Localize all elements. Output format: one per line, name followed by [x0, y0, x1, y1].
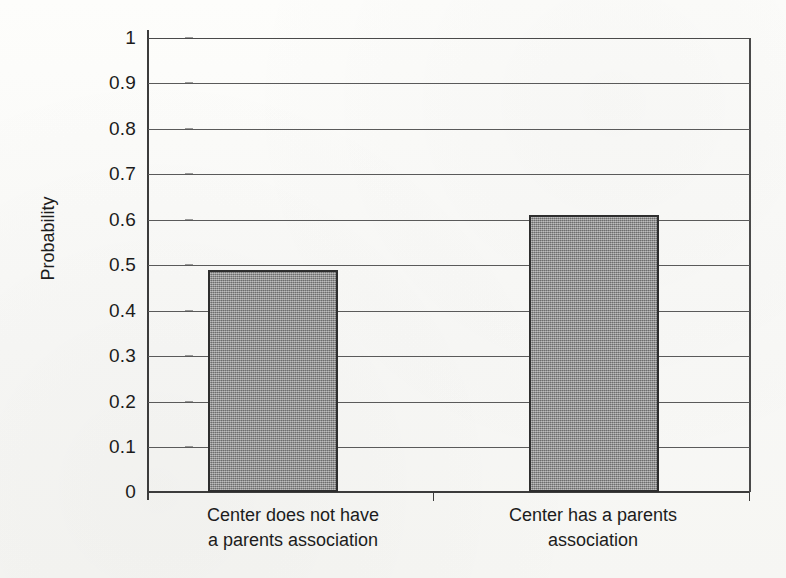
- bar-center-has-parents-association: [529, 215, 659, 492]
- y-tick-label-0-9: 0.9: [109, 72, 136, 94]
- x-category-label-0-line-0: Center does not have: [152, 503, 434, 528]
- x-category-label-1: Center has a parents association: [452, 503, 734, 553]
- gridline-0-7: [148, 174, 750, 175]
- y-tick-label-0-7: 0.7: [109, 163, 136, 185]
- gridline-0-5: [148, 265, 750, 266]
- y-tick-label-0-1: 0.1: [109, 436, 136, 458]
- y-tick-label-0-3: 0.3: [109, 345, 136, 367]
- x-tick-mark-right: [749, 492, 750, 501]
- gridline-0-9: [148, 83, 750, 84]
- y-tick-label-0: 0: [125, 481, 136, 503]
- x-category-label-1-line-1: association: [452, 528, 734, 553]
- y-tick-label-0-4: 0.4: [109, 300, 136, 322]
- gridline-0-6: [148, 220, 750, 221]
- y-tick-label-0-2: 0.2: [109, 391, 136, 413]
- y-axis-tick-labels: 1 0.9 0.8 0.7 0.6 0.5 0.4 0.3 0.2 0.1 0: [44, 0, 136, 578]
- x-category-label-0: Center does not have a parents associati…: [152, 503, 434, 553]
- x-category-label-1-line-0: Center has a parents: [452, 503, 734, 528]
- gridline-1: [148, 38, 750, 39]
- bar-center-does-not-have-parents-association: [208, 270, 338, 492]
- y-tick-label-0-6: 0.6: [109, 209, 136, 231]
- y-tick-label-1: 1: [125, 27, 136, 49]
- y-tick-label-0-5: 0.5: [109, 254, 136, 276]
- x-tick-mark-middle: [433, 492, 434, 501]
- y-tick-label-0-8: 0.8: [109, 118, 136, 140]
- gridline-0-8: [148, 129, 750, 130]
- chart-figure: Probability 1 0.9 0.8 0.7 0.6 0.5 0.4 0.…: [0, 0, 786, 578]
- x-category-label-0-line-1: a parents association: [152, 528, 434, 553]
- plot-area: [148, 38, 750, 492]
